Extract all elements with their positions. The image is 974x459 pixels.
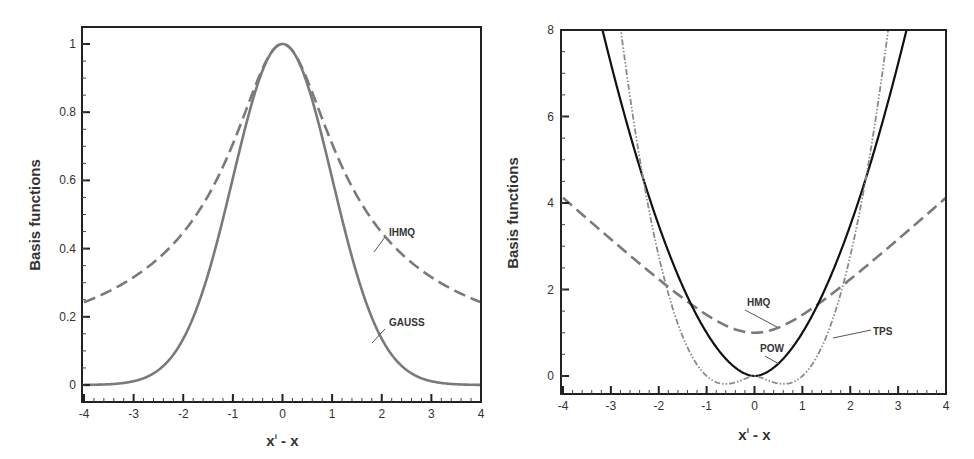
annotation-hmq: HMQ: [747, 297, 771, 308]
x-tick-label: -1: [228, 407, 239, 421]
y-tick-label: 2: [547, 283, 554, 297]
series-gauss-line: [84, 44, 481, 385]
annotation-pow: POW: [760, 343, 784, 354]
series-ihmq-line: [84, 44, 481, 302]
x-tick-label: 1: [799, 399, 806, 413]
x-tick-label: 0: [751, 399, 758, 413]
x-tick-label: -4: [558, 399, 569, 413]
basis-functions-figure: -4-3-2-10123400.20.40.60.81Basis functio…: [0, 0, 974, 459]
x-axis-title: xi - x: [738, 426, 771, 443]
x-tick-label: 1: [329, 407, 336, 421]
y-axis-title: Basis functions: [26, 159, 43, 271]
plot-area: [84, 44, 481, 385]
y-tick-label: 0: [547, 369, 554, 383]
annotation-ihmq: IHMQ: [389, 227, 415, 238]
x-tick-label: 0: [279, 407, 286, 421]
x-tick-label: 4: [943, 399, 950, 413]
x-tick-label: -3: [606, 399, 617, 413]
y-tick-label: 0: [69, 378, 76, 392]
y-tick-label: 0.4: [59, 242, 76, 256]
y-tick-label: 6: [547, 110, 554, 124]
x-tick-label: 4: [478, 407, 485, 421]
series-pow-line: [563, 0, 946, 376]
annotation-tps: TPS: [873, 326, 893, 337]
x-tick-label: -1: [701, 399, 712, 413]
x-tick-label: 3: [895, 399, 902, 413]
x-tick-label: 3: [428, 407, 435, 421]
x-tick-label: -2: [653, 399, 664, 413]
plot-frame: [561, 30, 946, 394]
plot-frame: [82, 27, 481, 402]
x-tick-label: -3: [128, 407, 139, 421]
series-hmq-line: [563, 198, 946, 333]
y-tick-label: 0.2: [59, 310, 76, 324]
x-tick-label: 2: [847, 399, 854, 413]
x-axis-title: xi - x: [266, 432, 299, 449]
annotation-gauss: GAUSS: [389, 317, 425, 328]
x-tick-label: -4: [79, 407, 90, 421]
y-axis-title: Basis functions: [504, 157, 521, 269]
y-tick-label: 8: [547, 23, 554, 37]
y-tick-label: 0.8: [59, 105, 76, 119]
y-tick-label: 0.6: [59, 173, 76, 187]
y-tick-label: 4: [547, 196, 554, 210]
x-tick-label: -2: [178, 407, 189, 421]
right-chart-panel: -4-3-2-10123402468Basis functionsxi - xH…: [504, 0, 950, 443]
x-tick-label: 2: [378, 407, 385, 421]
left-chart-panel: -4-3-2-10123400.20.40.60.81Basis functio…: [26, 27, 485, 449]
y-tick-label: 1: [69, 37, 76, 51]
